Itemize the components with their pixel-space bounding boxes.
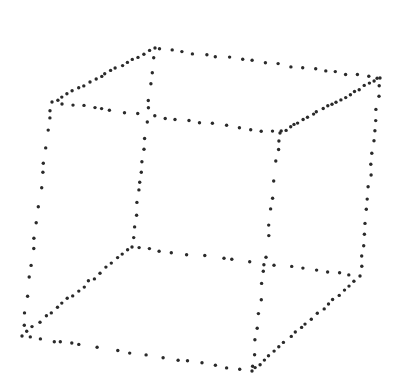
dot bbox=[290, 265, 293, 268]
dot bbox=[82, 104, 85, 107]
dot bbox=[144, 353, 147, 356]
dot bbox=[71, 103, 74, 106]
dot bbox=[136, 56, 139, 59]
dot bbox=[26, 295, 29, 298]
dot bbox=[222, 257, 225, 260]
dot bbox=[256, 327, 259, 330]
dot bbox=[310, 318, 313, 321]
dot bbox=[360, 254, 363, 257]
dot bbox=[88, 80, 91, 83]
dot bbox=[41, 171, 44, 174]
dot bbox=[35, 221, 38, 224]
dot bbox=[77, 343, 80, 346]
dot bbox=[161, 356, 164, 359]
dot bbox=[23, 311, 26, 314]
dot bbox=[133, 225, 136, 228]
dot bbox=[116, 256, 119, 259]
dot bbox=[44, 146, 47, 149]
dot bbox=[301, 266, 304, 269]
dot bbox=[148, 247, 151, 250]
dot bbox=[60, 301, 63, 304]
dot bbox=[294, 330, 297, 333]
dot bbox=[374, 108, 377, 111]
dot bbox=[372, 139, 375, 142]
dot bbox=[264, 61, 267, 64]
dot bbox=[30, 325, 33, 328]
dot bbox=[289, 65, 292, 68]
dot bbox=[135, 214, 138, 217]
dot bbox=[152, 56, 155, 59]
dot bbox=[65, 92, 68, 95]
dot bbox=[214, 55, 217, 58]
dot bbox=[39, 337, 42, 340]
dot bbox=[327, 302, 330, 305]
dot bbox=[131, 58, 134, 61]
dot bbox=[277, 148, 280, 151]
dot bbox=[374, 119, 377, 122]
dot bbox=[185, 253, 188, 256]
dot bbox=[260, 298, 263, 301]
dot bbox=[28, 275, 31, 278]
dot bbox=[48, 109, 51, 112]
dot bbox=[148, 49, 151, 52]
dot bbox=[214, 364, 217, 367]
vertex-dot-FBL bbox=[20, 334, 23, 337]
dot bbox=[356, 73, 359, 76]
dot bbox=[290, 335, 293, 338]
dot bbox=[370, 152, 373, 155]
dot bbox=[253, 353, 256, 356]
dot bbox=[326, 104, 329, 107]
dot bbox=[362, 244, 365, 247]
vertex-dot-BTR bbox=[378, 76, 381, 79]
dot bbox=[249, 128, 252, 131]
dot bbox=[42, 162, 45, 165]
dot bbox=[277, 345, 280, 348]
dot bbox=[343, 288, 346, 291]
dot bbox=[110, 261, 113, 264]
dot bbox=[274, 159, 277, 162]
dot bbox=[366, 185, 369, 188]
dot bbox=[103, 72, 106, 75]
dot bbox=[238, 126, 241, 129]
dot bbox=[171, 48, 174, 51]
dot bbox=[360, 265, 363, 268]
dot bbox=[200, 361, 203, 364]
dot bbox=[344, 96, 347, 99]
dot bbox=[264, 256, 267, 259]
dot bbox=[331, 298, 334, 301]
dot bbox=[132, 236, 135, 239]
dot bbox=[70, 89, 73, 92]
dot bbox=[143, 137, 146, 140]
dot bbox=[228, 55, 231, 58]
dot bbox=[271, 129, 274, 132]
dot bbox=[203, 254, 206, 257]
dot bbox=[205, 53, 208, 56]
dot bbox=[25, 330, 28, 333]
dot bbox=[37, 205, 40, 208]
dot bbox=[372, 79, 375, 82]
dot bbox=[121, 64, 124, 67]
dot bbox=[260, 130, 263, 133]
dot bbox=[241, 58, 244, 61]
dot bbox=[289, 125, 292, 128]
dot bbox=[104, 265, 107, 268]
dot bbox=[369, 173, 372, 176]
dot bbox=[176, 359, 179, 362]
dot bbox=[113, 66, 116, 69]
dot bbox=[323, 307, 326, 310]
dot bbox=[87, 279, 90, 282]
dot bbox=[314, 67, 317, 70]
dot bbox=[269, 207, 272, 210]
dot bbox=[334, 101, 337, 104]
dot bbox=[146, 120, 149, 123]
dot bbox=[153, 114, 156, 117]
dot bbox=[347, 284, 350, 287]
dot bbox=[250, 59, 253, 62]
dot bbox=[358, 88, 361, 91]
dot bbox=[93, 106, 96, 109]
dot bbox=[225, 124, 228, 127]
dot bbox=[272, 179, 275, 182]
dot bbox=[375, 77, 378, 80]
vertex-dot-BBR bbox=[358, 274, 361, 277]
dot bbox=[363, 222, 366, 225]
